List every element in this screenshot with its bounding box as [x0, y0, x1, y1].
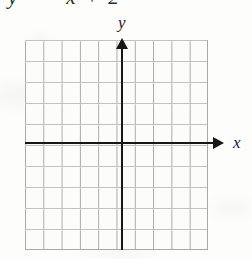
x-axis-arrow-icon — [213, 137, 224, 149]
clipped-equation-text: y = −x + 2 — [8, 0, 121, 10]
clipped-equation-strip: y = −x + 2 — [0, 0, 252, 13]
coordinate-grid — [25, 40, 208, 250]
y-axis-line — [121, 46, 123, 250]
y-axis-label: y — [118, 14, 126, 31]
y-axis-arrow-icon — [116, 38, 128, 49]
x-axis-label: x — [233, 134, 241, 151]
x-axis-line — [25, 142, 215, 144]
graph-figure: y = −x + 2 y x — [0, 0, 252, 259]
